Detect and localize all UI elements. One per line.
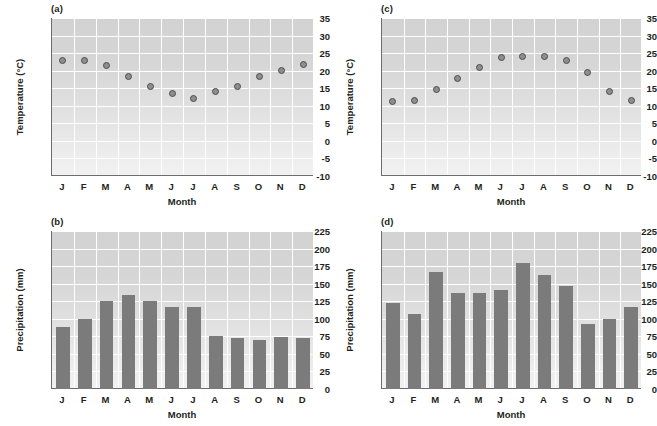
x-axis-tick-label: J xyxy=(389,394,394,405)
gridline-vertical xyxy=(96,18,97,175)
y-axis-tick-label: 175 xyxy=(284,261,330,272)
panel-b-tag: (b) xyxy=(51,216,63,227)
y-axis-tick-label: 125 xyxy=(611,296,657,307)
x-axis-title: Month xyxy=(497,196,526,207)
bar xyxy=(165,307,179,389)
data-point xyxy=(81,57,88,64)
gridline-vertical xyxy=(270,231,271,388)
y-axis-title: Precipitation (mm) xyxy=(344,231,355,389)
y-axis-tick-label: 100 xyxy=(611,313,657,324)
y-axis-tick-label: 75 xyxy=(284,331,330,342)
gridline-vertical xyxy=(205,231,206,388)
bar xyxy=(296,338,310,389)
bar xyxy=(559,286,572,389)
gridline-vertical xyxy=(227,231,228,388)
x-axis-tick-label: F xyxy=(411,181,417,192)
x-axis-tick-label: A xyxy=(453,181,460,192)
data-point xyxy=(476,64,483,71)
bar xyxy=(122,295,136,389)
y-axis-tick-label: 225 xyxy=(611,226,657,237)
gridline-vertical xyxy=(292,18,293,175)
x-axis-tick-label: J xyxy=(190,394,195,405)
x-axis-tick-label: S xyxy=(233,394,239,405)
x-axis-tick-label: J xyxy=(168,181,173,192)
x-axis-tick-label: O xyxy=(255,181,262,192)
gridline-vertical xyxy=(555,231,556,388)
x-axis-tick-label: M xyxy=(431,181,439,192)
bar xyxy=(494,290,507,389)
gridline-vertical xyxy=(425,18,426,175)
gridline-vertical xyxy=(534,231,535,388)
gridline-vertical xyxy=(227,18,228,175)
y-axis-tick-label: 175 xyxy=(611,261,657,272)
data-point xyxy=(212,88,219,95)
x-axis-tick-label: N xyxy=(605,394,612,405)
panel-b-plot-area xyxy=(51,231,313,389)
x-axis-tick-label: A xyxy=(540,181,547,192)
x-axis-tick-label: J xyxy=(498,394,503,405)
bar xyxy=(473,293,486,389)
gridline-vertical xyxy=(404,231,405,388)
y-axis-tick-label: 0 xyxy=(611,135,657,146)
x-axis-tick-label: J xyxy=(498,181,503,192)
panel-d-tag: (d) xyxy=(381,216,393,227)
x-axis-tick-label: J xyxy=(190,181,195,192)
gridline-vertical xyxy=(292,231,293,388)
data-point xyxy=(519,53,526,60)
y-axis-tick-label: 0 xyxy=(284,135,330,146)
x-axis-tick-label: D xyxy=(299,394,306,405)
data-point xyxy=(59,57,66,64)
x-axis-tick-label: N xyxy=(605,181,612,192)
gridline-vertical xyxy=(249,18,250,175)
x-axis-tick-label: A xyxy=(124,181,131,192)
x-axis-tick-label: M xyxy=(102,394,110,405)
gridline-vertical xyxy=(577,231,578,388)
data-point xyxy=(433,86,440,93)
y-axis-tick-label: 225 xyxy=(284,226,330,237)
data-point xyxy=(256,73,263,80)
x-axis-tick-label: M xyxy=(145,394,153,405)
panel-a-plot-area xyxy=(51,18,313,176)
y-axis-title: Precipitation (mm) xyxy=(14,231,25,389)
bar xyxy=(581,324,594,389)
x-axis-tick-label: M xyxy=(145,181,153,192)
y-axis-tick-label: 150 xyxy=(611,278,657,289)
panel-a-tag: (a) xyxy=(51,3,63,14)
gridline-vertical xyxy=(620,231,621,388)
data-point xyxy=(234,83,241,90)
y-axis-tick-label: 125 xyxy=(284,296,330,307)
bar xyxy=(143,301,157,389)
data-point xyxy=(389,98,396,105)
data-point xyxy=(454,75,461,82)
gridline-vertical xyxy=(447,18,448,175)
data-point xyxy=(125,73,132,80)
y-axis-tick-label: 150 xyxy=(284,278,330,289)
x-axis-tick-label: M xyxy=(102,181,110,192)
y-axis-tick-label: 0 xyxy=(611,384,657,395)
panel-a-temperature: (a) -10-505101520253035JFMAMJJASONDMonth… xyxy=(0,0,330,213)
y-axis-tick-label: 5 xyxy=(284,118,330,129)
y-axis-tick-label: 15 xyxy=(611,83,657,94)
x-axis-tick-label: M xyxy=(431,394,439,405)
y-axis-tick-label: 100 xyxy=(284,313,330,324)
gridline-vertical xyxy=(205,18,206,175)
bar xyxy=(56,327,70,389)
data-point xyxy=(190,95,197,102)
y-axis-tick-label: 50 xyxy=(284,348,330,359)
gridline-vertical xyxy=(74,231,75,388)
panel-c-tag: (c) xyxy=(381,3,393,14)
x-axis-tick-label: O xyxy=(255,394,262,405)
panel-d-plot-area xyxy=(381,231,641,389)
x-axis-tick-label: F xyxy=(411,394,417,405)
x-axis-tick-label: F xyxy=(81,181,87,192)
bar xyxy=(451,293,464,389)
gridline-vertical xyxy=(249,231,250,388)
bar xyxy=(100,301,114,389)
gridline-vertical xyxy=(118,18,119,175)
y-axis-tick-label: 5 xyxy=(611,118,657,129)
y-axis-title: Temperature (°C) xyxy=(344,18,355,176)
bar xyxy=(187,307,201,389)
bar xyxy=(408,314,421,389)
y-axis-tick-label: 20 xyxy=(284,65,330,76)
data-point xyxy=(147,83,154,90)
